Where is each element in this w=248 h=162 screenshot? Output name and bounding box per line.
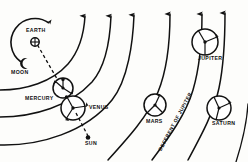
saturn-epicycle-group <box>207 96 231 120</box>
venus-body-dot <box>65 95 68 98</box>
label-venus: VENUS <box>89 105 109 110</box>
label-moon: MOON <box>11 70 29 75</box>
mercury-epicycle-group <box>53 78 73 98</box>
label-mercury: MERCURY <box>25 96 53 101</box>
label-sun: SUN <box>85 141 97 146</box>
deferent-arc-7 <box>236 104 248 162</box>
label-earth: EARTH <box>26 28 46 33</box>
label-saturn: SATURN <box>212 121 235 126</box>
label-jupiter: JUPITER <box>198 56 222 61</box>
mercury-body-dot <box>61 78 64 81</box>
moon-crescent <box>20 58 27 69</box>
deferent-arc-4 <box>108 14 170 160</box>
label-mars: MARS <box>146 119 163 124</box>
ptolemaic-system-diagram: EARTH MOON MERCURY VENUS SUN MARS JUPITE… <box>0 0 248 162</box>
diagram-canvas <box>0 0 248 162</box>
jupiter-epicycle-group <box>192 29 218 55</box>
deferent-arc-2 <box>0 16 111 117</box>
mars-epicycle-group <box>144 94 166 116</box>
